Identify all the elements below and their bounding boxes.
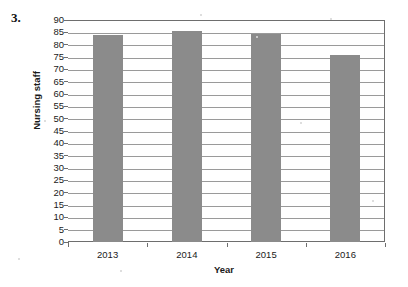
y-axis-tick-mark — [64, 143, 68, 144]
y-axis-tick-mark — [64, 20, 68, 21]
scan-artifact — [120, 270, 122, 272]
y-axis-tick-label: 60 — [34, 89, 64, 99]
y-axis-tick-mark — [64, 57, 68, 58]
y-axis-tick-label: 65 — [34, 77, 64, 87]
y-axis-tick-mark — [64, 168, 68, 169]
y-axis-tick-label: 5 — [34, 225, 64, 235]
x-axis-tick-label: 2015 — [236, 249, 296, 260]
y-axis-tick-label: 30 — [34, 163, 64, 173]
y-axis-tick-mark — [64, 192, 68, 193]
scan-artifact — [200, 14, 202, 16]
bar-2016 — [330, 55, 360, 242]
x-axis-tick-mark — [306, 243, 307, 247]
y-axis-tick-mark — [64, 155, 68, 156]
scan-artifact — [256, 36, 258, 38]
y-axis-tick-label: 80 — [34, 40, 64, 50]
y-axis-tick-mark — [64, 94, 68, 95]
bar-2014 — [172, 31, 202, 242]
bar-2015 — [251, 34, 281, 242]
y-axis-tick-label: 45 — [34, 126, 64, 136]
x-axis-tick-mark — [68, 243, 69, 247]
x-axis-title: Year — [62, 264, 386, 275]
x-axis-tick-label: 2014 — [157, 249, 217, 260]
y-axis-tick-mark — [64, 106, 68, 107]
question-number: 3. — [11, 10, 21, 26]
y-axis-tick-label: 35 — [34, 151, 64, 161]
y-axis-tick-mark — [64, 118, 68, 119]
y-axis-tick-mark — [64, 205, 68, 206]
y-axis-tick-mark — [64, 32, 68, 33]
y-axis-tick-mark — [64, 69, 68, 70]
y-axis-tick-mark — [64, 44, 68, 45]
y-axis-tick-label: 15 — [34, 200, 64, 210]
y-axis-tick-label: 20 — [34, 188, 64, 198]
gridline — [68, 33, 384, 34]
x-axis-tick-mark — [147, 243, 148, 247]
y-axis-tick-mark — [64, 81, 68, 82]
chart-figure: 3. Nursing staff 05101520253035404550556… — [0, 0, 408, 287]
y-axis-tick-label: 50 — [34, 114, 64, 124]
scan-artifact — [330, 18, 332, 20]
y-axis-tick-label: 10 — [34, 212, 64, 222]
y-axis-tick-mark — [64, 217, 68, 218]
x-axis-tick-label: 2016 — [315, 249, 375, 260]
y-axis-tick-mark — [64, 229, 68, 230]
x-axis-tick-label: 2013 — [78, 249, 138, 260]
y-axis-tick-label: 75 — [34, 52, 64, 62]
scan-artifact — [300, 122, 302, 124]
bar-2013 — [93, 35, 123, 242]
y-axis-tick-label: 55 — [34, 101, 64, 111]
y-axis-tick-label: 85 — [34, 27, 64, 37]
y-axis-tick-labels: 051015202530354045505560657075808590 — [30, 20, 64, 242]
y-axis-tick-label: 40 — [34, 138, 64, 148]
x-axis-tick-mark — [385, 243, 386, 247]
scan-artifact — [372, 200, 374, 202]
y-axis-tick-label: 25 — [34, 175, 64, 185]
x-axis-tick-mark — [227, 243, 228, 247]
y-axis-tick-mark — [64, 131, 68, 132]
y-axis-tick-label: 0 — [34, 237, 64, 247]
y-axis-tick-mark — [64, 180, 68, 181]
scan-artifact — [18, 258, 20, 260]
y-axis-tick-label: 70 — [34, 64, 64, 74]
y-axis-tick-label: 90 — [34, 15, 64, 25]
scan-artifact — [44, 120, 46, 122]
